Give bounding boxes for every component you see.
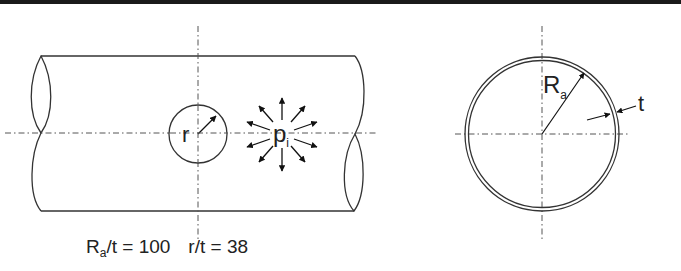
pipe-cross-section: Ra t: [455, 26, 644, 242]
thickness-label: t: [638, 91, 644, 116]
left-break-tail: [32, 133, 41, 211]
right-break-loop: [344, 134, 363, 211]
diagram-canvas: r pi Ra t: [0, 0, 681, 271]
right-break-tail: [355, 56, 364, 134]
pressure-label: pi: [273, 120, 289, 150]
hole: r: [169, 105, 228, 163]
left-break-loop: [31, 56, 51, 133]
ratio-ra-t: Ra/t = 100: [86, 236, 170, 257]
hole-radius-label: r: [182, 122, 189, 147]
thickness-arrow-out: [617, 106, 636, 112]
ratio-r-t: r/t = 38: [188, 236, 248, 257]
caption-ratios: Ra/t = 100r/t = 38: [86, 236, 248, 260]
radius-label: Ra: [543, 71, 567, 102]
thickness-arrow-in: [587, 114, 610, 120]
